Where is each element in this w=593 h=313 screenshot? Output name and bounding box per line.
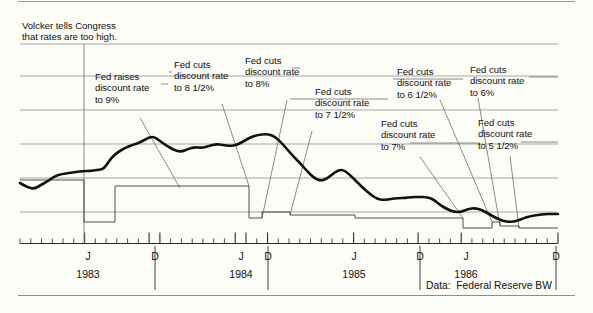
axis-year-1986: 1986 (446, 268, 486, 280)
chart-canvas (0, 0, 593, 313)
annotation-cut-5half: Fed cuts discount rate to 5 1/2% (478, 117, 532, 151)
annotation-cut-7half: Fed cuts discount rate to 7 1/2% (315, 86, 369, 120)
axis-label-d-1983: D (148, 250, 162, 262)
axis-label-j-1986: J (459, 250, 473, 262)
annotation-cut-6half: Fed cuts discount rate to 6 1/2% (397, 66, 451, 100)
axis-label-d-1985: D (413, 250, 427, 262)
axis-label-j-1983: J (81, 250, 95, 262)
axis-year-1984: 1984 (221, 268, 261, 280)
axis-year-1983: 1983 (68, 268, 108, 280)
data-source-note: Data: Federal Reserve BW (426, 280, 552, 291)
axis-label-j-1985: J (347, 250, 361, 262)
chart-figure: Volcker tells Congress that rates are to… (0, 0, 593, 313)
axis-year-1985: 1985 (334, 268, 374, 280)
annotation-pointer-cut-5half (510, 156, 519, 228)
annotation-cut-7: Fed cuts discount rate to 7% (381, 118, 435, 152)
axis-label-j-1984: J (234, 250, 248, 262)
annotation-cut-8: Fed cuts discount rate to 8% (245, 55, 299, 89)
axis-label-d-1986: D (549, 250, 563, 262)
annotation-pointer-cut-8 (262, 100, 287, 218)
annotation-pointer-cut-7 (420, 157, 463, 218)
annotation-pointer-raise-9 (140, 118, 180, 188)
annotation-cut-8half: Fed cuts discount rate to 8 1/2% (174, 59, 228, 93)
annotation-raise-9: Fed raises discount rate to 9% (95, 71, 149, 105)
annotation-volcker: Volcker tells Congress that rates are to… (22, 20, 117, 43)
axis-label-d-1984: D (261, 250, 275, 262)
annotation-cut-6: Fed cuts discount rate to 6% (470, 64, 524, 98)
